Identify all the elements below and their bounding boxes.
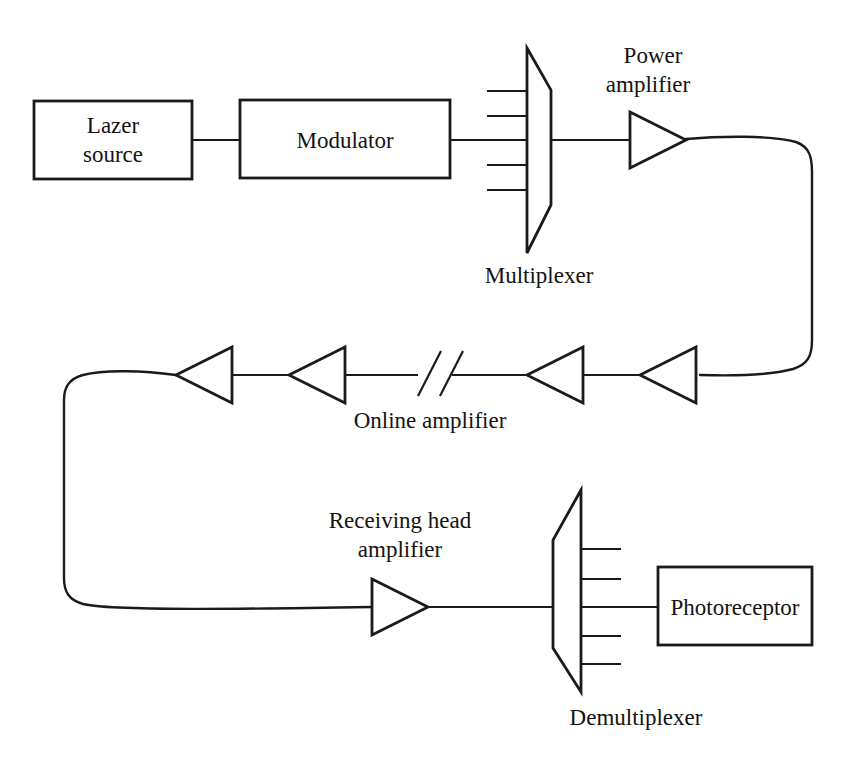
lazer-source-label-line2: source: [83, 142, 143, 167]
power-amplifier-label-line2: amplifier: [606, 72, 691, 97]
break-slash-2: [440, 351, 463, 396]
receiving-head-amplifier-label-line2: amplifier: [358, 537, 443, 562]
receiving-head-amplifier-triangle[interactable]: [372, 579, 428, 635]
modulator-label: Modulator: [296, 128, 393, 153]
lazer-source-label-line1: Lazer: [87, 113, 140, 138]
multiplexer-shape[interactable]: [527, 48, 551, 253]
demultiplexer-shape[interactable]: [553, 490, 581, 692]
online-amplifier-label: Online amplifier: [354, 408, 507, 433]
optical-link-diagram: Lazer source Modulator Power amplifier M…: [0, 0, 853, 768]
online-amplifier-2[interactable]: [289, 347, 345, 403]
demultiplexer-label: Demultiplexer: [570, 705, 703, 730]
fiber-left-loop: [64, 371, 372, 609]
fiber-top-right-loop: [686, 137, 812, 376]
receiving-head-amplifier-label-line1: Receiving head: [329, 508, 472, 533]
online-amplifier-1[interactable]: [176, 347, 232, 403]
online-amplifier-4[interactable]: [640, 347, 696, 403]
multiplexer-label: Multiplexer: [485, 263, 594, 288]
power-amplifier-label-line1: Power: [624, 43, 683, 68]
diagram-canvas: Lazer source Modulator Power amplifier M…: [0, 0, 853, 768]
photoreceptor-label: Photoreceptor: [670, 595, 799, 620]
break-slash-1: [418, 351, 441, 396]
power-amplifier-triangle[interactable]: [630, 112, 686, 168]
online-amplifier-3[interactable]: [527, 347, 583, 403]
